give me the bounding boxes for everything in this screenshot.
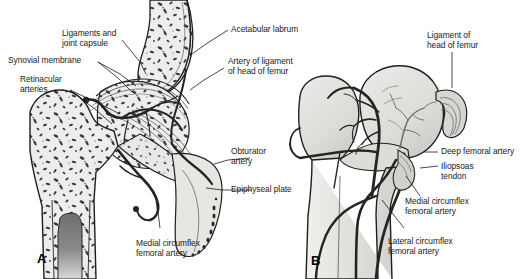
label-acetabular-labrum: Acetabular labrum: [231, 24, 298, 34]
panel-b-letter: B: [311, 253, 320, 268]
label-medial-circumflex-femoral-artery-b: Medial circumflex femoral artery: [405, 196, 469, 216]
label-deep-femoral-artery: Deep femoral artery: [441, 146, 514, 156]
label-ligaments-and-joint-capsule: Ligaments and joint capsule: [62, 28, 116, 48]
panel-a-letter: A: [37, 251, 47, 266]
label-synovial-membrane: Synovial membrane: [8, 55, 81, 65]
greater-trochanter-b: [299, 76, 359, 160]
anatomy-figure: A: [0, 0, 527, 279]
label-artery-of-ligament-of-head-of-femur: Artery of ligament of head of femur: [228, 56, 293, 76]
label-ligament-of-head-of-femur: Ligament of head of femur: [427, 30, 478, 50]
label-obturator-artery: Obturator artery: [231, 146, 266, 166]
label-retinacular-arteries: Retinacular arteries: [20, 74, 62, 94]
label-epiphyseal-plate: Epiphyseal plate: [231, 184, 292, 194]
label-lateral-circumflex-femoral-artery: Lateral circumflex femoral artery: [388, 236, 453, 256]
medullary-cavity: [58, 213, 82, 279]
label-medial-circumflex-femoral-artery-a: Medial circumflex femoral artery: [136, 238, 200, 258]
label-iliopsoas-tendon: Iliopsoas tendon: [441, 161, 474, 181]
